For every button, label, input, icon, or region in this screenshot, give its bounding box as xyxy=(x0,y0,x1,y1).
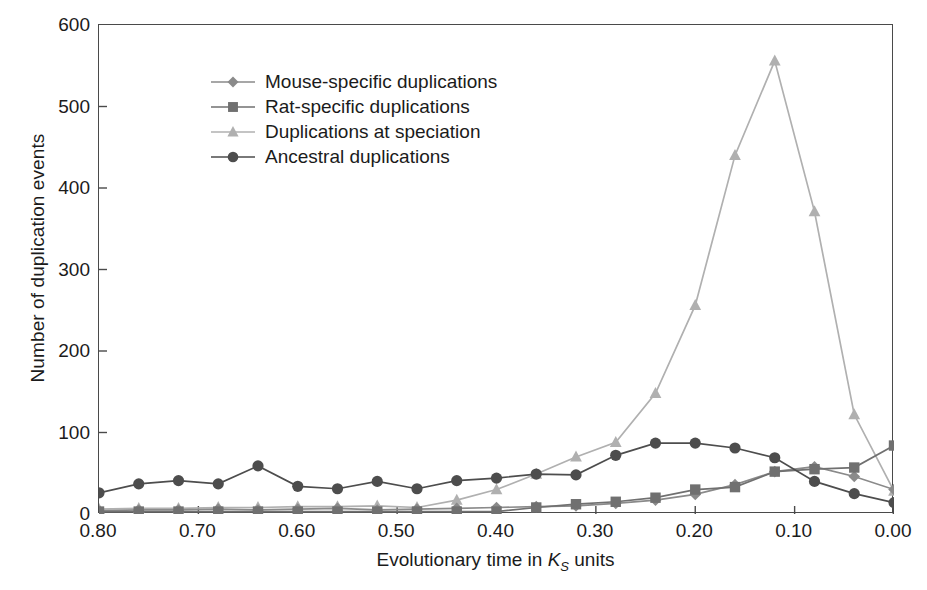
data-point xyxy=(213,506,223,514)
legend-label: Duplications at speciation xyxy=(257,121,480,143)
x-tick-label: 0.40 xyxy=(456,521,536,540)
data-point xyxy=(848,408,860,419)
data-point xyxy=(491,506,501,514)
x-tick-label: 0.80 xyxy=(58,521,138,540)
y-tick-label: 500 xyxy=(30,96,90,115)
data-point xyxy=(452,506,462,514)
x-tick-label: 0.30 xyxy=(555,521,635,540)
legend-marker-circle-icon xyxy=(209,149,257,165)
data-point xyxy=(611,497,621,507)
data-point xyxy=(491,473,502,484)
legend-item: Duplications at speciation xyxy=(209,119,497,144)
x-tick-label: 0.70 xyxy=(157,521,237,540)
data-point xyxy=(571,499,581,509)
y-tick-label: 600 xyxy=(30,15,90,34)
data-point xyxy=(531,502,541,512)
chart-figure: Number of duplication events Evolutionar… xyxy=(0,0,927,590)
data-point xyxy=(690,437,701,448)
data-point xyxy=(730,482,740,492)
data-point xyxy=(99,487,105,498)
data-point xyxy=(809,205,821,216)
data-point xyxy=(809,464,819,474)
data-point xyxy=(292,481,303,492)
x-axis-title-prefix: Evolutionary time in xyxy=(377,549,548,570)
chart-legend: Mouse-specific duplicationsRat-specific … xyxy=(209,69,497,169)
data-point xyxy=(849,488,860,499)
plot-frame: Mouse-specific duplicationsRat-specific … xyxy=(98,24,893,513)
data-point xyxy=(729,149,741,160)
y-tick-label: 300 xyxy=(30,259,90,278)
x-axis-title-variable: K xyxy=(548,549,561,570)
y-tick-label: 400 xyxy=(30,178,90,197)
legend-label: Mouse-specific duplications xyxy=(257,71,497,93)
legend-label: Rat-specific duplications xyxy=(257,96,470,118)
legend-item: Mouse-specific duplications xyxy=(209,69,497,94)
data-point xyxy=(610,450,621,461)
data-point xyxy=(332,483,343,494)
data-point xyxy=(531,468,542,479)
data-point xyxy=(849,462,859,472)
data-point xyxy=(690,484,700,494)
data-point xyxy=(650,387,662,398)
legend-marker-diamond-icon xyxy=(209,74,257,90)
data-point xyxy=(451,475,462,486)
data-point xyxy=(729,442,740,453)
data-point xyxy=(213,478,224,489)
data-point xyxy=(770,466,780,476)
legend-item: Ancestral duplications xyxy=(209,144,497,169)
legend-item: Rat-specific duplications xyxy=(209,94,497,119)
y-tick-label: 100 xyxy=(30,422,90,441)
x-axis-title-suffix: units xyxy=(569,549,614,570)
x-tick-label: 0.00 xyxy=(853,521,927,540)
data-point xyxy=(253,506,263,514)
data-point xyxy=(134,506,144,514)
data-point xyxy=(332,506,342,514)
x-tick-label: 0.60 xyxy=(257,521,337,540)
data-point xyxy=(650,437,661,448)
data-point xyxy=(412,506,422,514)
data-point xyxy=(889,440,894,450)
data-point xyxy=(372,476,383,487)
x-tick-label: 0.20 xyxy=(654,521,734,540)
data-point xyxy=(689,299,701,310)
data-point xyxy=(252,460,263,471)
data-point xyxy=(372,506,382,514)
data-point xyxy=(99,506,104,514)
data-point xyxy=(293,506,303,514)
data-point xyxy=(809,476,820,487)
data-point xyxy=(769,54,781,65)
legend-marker-square-icon xyxy=(209,99,257,115)
x-axis-title: Evolutionary time in KS units xyxy=(98,549,893,574)
y-tick-label: 200 xyxy=(30,341,90,360)
legend-marker-triangle-icon xyxy=(209,124,257,140)
data-point xyxy=(570,469,581,480)
data-point xyxy=(173,475,184,486)
x-tick-label: 0.50 xyxy=(356,521,436,540)
y-axis-tick-labels: 0100200300400500600 xyxy=(28,0,90,590)
data-point xyxy=(650,493,660,503)
x-tick-label: 0.10 xyxy=(754,521,834,540)
data-point xyxy=(769,452,780,463)
x-axis-title-subscript: S xyxy=(560,559,569,574)
data-point xyxy=(888,497,894,508)
data-point xyxy=(133,478,144,489)
data-point xyxy=(173,506,183,514)
legend-label: Ancestral duplications xyxy=(257,146,450,168)
data-point xyxy=(411,483,422,494)
